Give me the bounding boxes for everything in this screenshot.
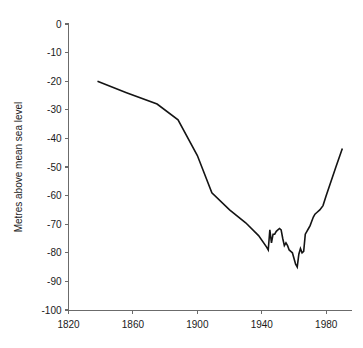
x-axis-tick-label: 1940 — [251, 319, 274, 330]
x-axis-tick-label: 1860 — [122, 319, 145, 330]
y-axis-tick-label: 0 — [56, 19, 62, 30]
y-axis-tick-label: -50 — [47, 162, 62, 173]
y-axis-tick-label: -20 — [47, 76, 62, 87]
x-axis-ticks: 18201860190019401980 — [57, 310, 337, 330]
y-axis-tick-label: -100 — [41, 305, 61, 316]
y-axis-tick-label: -70 — [47, 219, 62, 230]
y-axis-title: Metres above mean sea level — [13, 102, 24, 233]
x-axis-tick-label: 1980 — [315, 319, 338, 330]
y-axis-tick-label: -90 — [47, 276, 62, 287]
line-chart: 0-10-20-30-40-50-60-70-80-90-100 1820186… — [0, 0, 363, 348]
y-axis-tick-label: -80 — [47, 247, 62, 258]
y-axis-tick-label: -40 — [47, 133, 62, 144]
y-axis-tick-label: -30 — [47, 104, 62, 115]
y-axis-tick-label: -10 — [47, 47, 62, 58]
y-axis-tick-label: -60 — [47, 190, 62, 201]
chart-container: 0-10-20-30-40-50-60-70-80-90-100 1820186… — [0, 0, 363, 348]
x-axis-tick-label: 1820 — [57, 319, 80, 330]
series-line-lake-level — [97, 81, 342, 267]
y-axis-ticks: 0-10-20-30-40-50-60-70-80-90-100 — [41, 19, 68, 316]
x-axis-tick-label: 1900 — [186, 319, 209, 330]
